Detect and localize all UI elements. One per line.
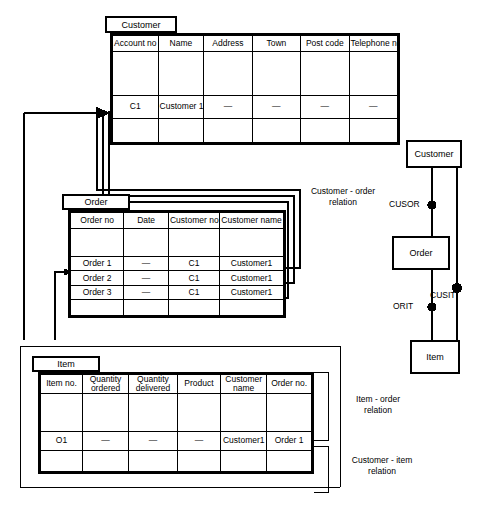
cell — [71, 300, 124, 316]
table-row — [113, 52, 398, 96]
diagram-canvas: Customer Account no Name Address Town Po… — [0, 0, 486, 511]
er-relationship-cusor-label: CUSOR — [388, 199, 421, 209]
cell: Order 1 — [71, 256, 124, 271]
cell — [129, 393, 178, 431]
er-entity-item: Item — [410, 340, 460, 374]
cell — [349, 52, 398, 96]
cell: Order 1 — [267, 431, 312, 451]
cell: Customer 1 — [158, 95, 204, 118]
order-table-tab: Order — [62, 194, 130, 210]
order-col-order-no: Order no — [71, 213, 124, 229]
order-table-header-row: Order no Date Customer no Customer name — [71, 213, 284, 229]
item-col-item-no: Item no. — [41, 375, 83, 394]
cell: — — [349, 95, 398, 118]
cell — [252, 52, 300, 96]
item-table-grid: Item no. Quantity ordered Quantity deliv… — [38, 372, 314, 474]
customer-col-address: Address — [204, 36, 252, 52]
customer-col-town: Town — [252, 36, 300, 52]
table-row — [41, 393, 312, 431]
cell — [113, 52, 159, 96]
cell: C1 — [168, 285, 219, 300]
cell — [267, 451, 312, 472]
er-relationship-orit-label: ORIT — [392, 301, 414, 311]
cell: — — [124, 256, 169, 271]
cell — [158, 118, 204, 142]
cell: C1 — [168, 256, 219, 271]
cell — [221, 451, 267, 472]
item-col-customer-name: Customer name — [221, 375, 267, 394]
customer-col-telephone-no: Telephone no. — [349, 36, 398, 52]
customer-col-name: Name — [158, 36, 204, 52]
cell — [252, 118, 300, 142]
cell — [124, 300, 169, 316]
customer-col-post-code: Post code — [301, 36, 349, 52]
cell — [124, 229, 169, 257]
item-col-quantity-ordered: Quantity ordered — [83, 375, 129, 394]
cell: — — [124, 285, 169, 300]
cell — [204, 52, 252, 96]
cell: Customer1 — [220, 256, 284, 271]
table-row — [71, 300, 284, 316]
cell: — — [301, 95, 349, 118]
item-table: Item no. Quantity ordered Quantity deliv… — [40, 374, 312, 472]
order-table: Order no Date Customer no Customer name — [70, 212, 284, 316]
er-entity-order: Order — [392, 236, 450, 270]
cell — [129, 451, 178, 472]
cell: — — [124, 271, 169, 286]
cell — [71, 229, 124, 257]
customer-table-tab: Customer — [105, 16, 177, 33]
cell — [177, 451, 220, 472]
cell: Customer1 — [220, 285, 284, 300]
cell — [113, 118, 159, 142]
item-table-tab: Item — [32, 356, 100, 372]
item-col-quantity-delivered: Quantity delivered — [129, 375, 178, 394]
cell — [41, 393, 83, 431]
cell — [301, 118, 349, 142]
cell: C1 — [113, 95, 159, 118]
cell — [177, 393, 220, 431]
cell: O1 — [41, 431, 83, 451]
customer-table-header-row: Account no Name Address Town Post code T… — [113, 36, 398, 52]
cell: — — [83, 431, 129, 451]
cell: C1 — [168, 271, 219, 286]
table-row: O1 — — — Customer1 Order 1 — [41, 431, 312, 451]
er-entity-customer-label: Customer — [414, 149, 453, 159]
table-row — [41, 451, 312, 472]
table-row — [113, 118, 398, 142]
cell: — — [177, 431, 220, 451]
order-col-customer-no: Customer no — [168, 213, 219, 229]
er-entity-customer: Customer — [406, 140, 462, 168]
table-row: Order 1 — C1 Customer1 — [71, 256, 284, 271]
order-table-grid: Order no Date Customer no Customer name — [68, 210, 286, 318]
cell: — — [204, 95, 252, 118]
cell: Order 2 — [71, 271, 124, 286]
customer-table-grid: Account no Name Address Town Post code T… — [110, 33, 400, 145]
table-row — [71, 229, 284, 257]
table-row: Order 3 — C1 Customer1 — [71, 285, 284, 300]
table-row: C1 Customer 1 — — — — — [113, 95, 398, 118]
cell — [83, 451, 129, 472]
item-table-header-row: Item no. Quantity ordered Quantity deliv… — [41, 375, 312, 394]
cell: Customer1 — [221, 431, 267, 451]
cell: Customer1 — [220, 271, 284, 286]
cell — [83, 393, 129, 431]
cell — [220, 300, 284, 316]
cell — [41, 451, 83, 472]
cell — [349, 118, 398, 142]
item-order-relation-label: Item - order relation — [338, 394, 418, 415]
item-col-product: Product — [177, 375, 220, 394]
customer-order-relation-label: Customer - order relation — [300, 186, 386, 207]
customer-item-relation-label: Customer - item relation — [338, 455, 426, 476]
customer-table-tab-label: Customer — [121, 20, 160, 30]
cell — [168, 300, 219, 316]
item-col-order-no: Order no. — [267, 375, 312, 394]
cell — [158, 52, 204, 96]
cell — [301, 52, 349, 96]
cell: — — [129, 431, 178, 451]
cell: Order 3 — [71, 285, 124, 300]
cell — [220, 229, 284, 257]
item-table-tab-label: Item — [57, 359, 75, 369]
cell — [221, 393, 267, 431]
er-entity-item-label: Item — [426, 352, 444, 362]
table-row: Order 2 — C1 Customer1 — [71, 271, 284, 286]
